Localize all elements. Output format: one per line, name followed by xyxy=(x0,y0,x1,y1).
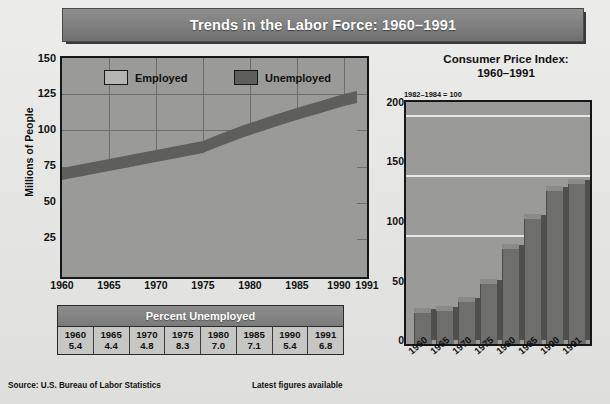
cpi-bar-group xyxy=(406,102,590,344)
table-cell-1980: 1980 7.0 xyxy=(201,327,237,354)
table-cell-1991: 1991 6.8 xyxy=(308,327,343,354)
x-tick-1960: 1960 xyxy=(50,279,73,291)
x-tick-1990: 1990 xyxy=(327,279,350,291)
cell-value: 6.8 xyxy=(308,340,343,351)
cell-value: 8.3 xyxy=(165,340,200,351)
area-employed xyxy=(62,103,357,277)
title-banner: Trends in the Labor Force: 1960–1991 xyxy=(62,8,584,42)
bar-front-face xyxy=(524,219,542,344)
bar-front-face xyxy=(546,191,564,344)
x-tick-1970: 1970 xyxy=(144,279,167,291)
legend-swatch-employed-icon xyxy=(104,70,128,85)
cell-year: 1970 xyxy=(130,329,165,340)
legend-item-employed: Employed xyxy=(104,70,188,85)
y-tick-150: 150 xyxy=(38,52,56,64)
y-tick-125: 125 xyxy=(38,87,56,99)
y-tick-25: 25 xyxy=(44,231,56,243)
percent-unemployed-table: Percent Unemployed 1960 5.4 1965 4.4 197… xyxy=(57,305,344,355)
legend-item-unemployed: Unemployed xyxy=(234,70,331,85)
table-cell-1990: 1990 5.4 xyxy=(273,327,309,354)
labor-force-area-chart: Millions of People 150 125 100 75 50 25 xyxy=(0,50,392,300)
table-header: Percent Unemployed xyxy=(57,305,344,326)
cpi-y-tick-150: 150 xyxy=(386,155,404,167)
cpi-y-tick-100: 100 xyxy=(386,215,404,227)
latest-figures-note: Latest figures available xyxy=(252,381,343,390)
consumer-price-index-chart: Consumer Price Index: 1960–1991 1982–198… xyxy=(378,48,610,388)
cell-value: 5.4 xyxy=(58,340,93,351)
bar-front-face xyxy=(502,249,520,344)
y-tick-100: 100 xyxy=(38,123,56,135)
cell-year: 1985 xyxy=(237,329,272,340)
x-tick-1965: 1965 xyxy=(97,279,120,291)
legend-label-unemployed: Unemployed xyxy=(265,72,331,84)
x-tick-1985: 1985 xyxy=(285,279,308,291)
cpi-bar-1991 xyxy=(568,179,585,344)
area-chart-y-axis: 150 125 100 75 50 25 xyxy=(22,50,56,275)
cpi-title-line-2: 1960–1991 xyxy=(402,66,610,80)
area-chart-plot-area: Employed Unemployed xyxy=(60,56,369,279)
cell-value: 4.4 xyxy=(94,340,129,351)
cell-value: 7.1 xyxy=(237,340,272,351)
cell-value: 5.4 xyxy=(273,340,308,351)
page-title: Trends in the Labor Force: 1960–1991 xyxy=(190,17,457,33)
y-tick-75: 75 xyxy=(44,159,56,171)
cpi-plot-area xyxy=(404,100,592,346)
cpi-chart-title: Consumer Price Index: 1960–1991 xyxy=(402,52,610,81)
legend-swatch-unemployed-icon xyxy=(234,70,258,85)
cpi-bar-1985 xyxy=(524,214,541,344)
cell-value: 7.0 xyxy=(201,340,236,351)
cpi-base-note: 1982–1984 = 100 xyxy=(404,90,462,99)
y-tick-50: 50 xyxy=(44,195,56,207)
cpi-y-tick-200: 200 xyxy=(386,96,404,108)
bar-front-face xyxy=(568,184,586,344)
cell-year: 1965 xyxy=(94,329,129,340)
cell-year: 1975 xyxy=(165,329,200,340)
table-cell-1970: 1970 4.8 xyxy=(130,327,166,354)
table-cell-1965: 1965 4.4 xyxy=(94,327,130,354)
cell-value: 4.8 xyxy=(130,340,165,351)
cpi-y-tick-50: 50 xyxy=(392,275,404,287)
cell-year: 1991 xyxy=(308,329,343,340)
x-tick-1980: 1980 xyxy=(238,279,261,291)
table-cell-1985: 1985 7.1 xyxy=(237,327,273,354)
cell-year: 1960 xyxy=(58,329,93,340)
bar-side-face xyxy=(585,180,590,340)
table-row: 1960 5.4 1965 4.4 1970 4.8 1975 8.3 1980… xyxy=(57,326,344,355)
cpi-x-axis: 1960 1965 1970 1975 1980 1985 1990 1991 xyxy=(404,346,588,386)
cpi-y-axis: 200 150 100 50 0 xyxy=(376,96,404,342)
table-cell-1960: 1960 5.4 xyxy=(58,327,94,354)
area-chart-x-axis: 1960 1965 1970 1975 1980 1985 1990 1991 xyxy=(60,279,365,297)
x-tick-1975: 1975 xyxy=(191,279,214,291)
cell-year: 1980 xyxy=(201,329,236,340)
area-chart-legend: Employed Unemployed xyxy=(62,58,367,92)
cpi-bar-1990 xyxy=(546,186,563,344)
table-cell-1975: 1975 8.3 xyxy=(165,327,201,354)
cpi-title-line-1: Consumer Price Index: xyxy=(402,52,610,66)
cpi-bar-1980 xyxy=(502,244,519,344)
legend-label-employed: Employed xyxy=(135,72,188,84)
cell-year: 1990 xyxy=(273,329,308,340)
source-note: Source: U.S. Bureau of Labor Statistics xyxy=(8,381,161,390)
infographic-page: Trends in the Labor Force: 1960–1991 Mil… xyxy=(0,0,610,404)
